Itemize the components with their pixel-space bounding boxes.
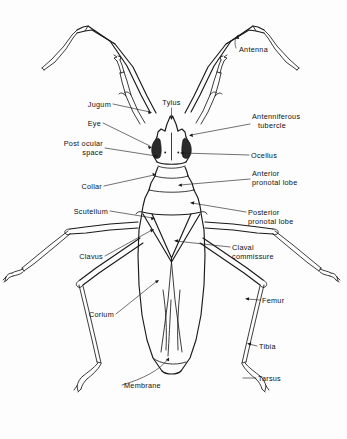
label-post-ocular-space-line1: Post ocular	[64, 139, 104, 148]
label-ocellus: Ocellus	[251, 151, 277, 160]
hindleg-right	[200, 238, 269, 392]
antenna-right	[185, 26, 299, 113]
label-eye: Eye	[88, 119, 101, 128]
midleg-left	[3, 222, 138, 282]
label-collar: Collar	[81, 182, 102, 191]
compound-eye-right	[182, 138, 191, 158]
label-clavus: Clavus	[79, 252, 103, 261]
label-antenna: Antenna	[239, 45, 269, 54]
label-antenniferous-tubercle-line2: tubercle	[258, 121, 286, 130]
anatomy-figure: Antenna Tylus Jugum Eye Post ocular spac…	[0, 0, 347, 439]
label-claval-commissure-line1: Claval	[232, 243, 254, 252]
label-anterior-pronotal-lobe-line2: pronotal lobe	[252, 178, 297, 187]
thorax	[136, 167, 207, 215]
label-tylus: Tylus	[162, 98, 180, 107]
ocellus-right	[177, 152, 179, 154]
label-texts: Antenna Tylus Jugum Eye Post ocular spac…	[64, 45, 301, 390]
label-claval-commissure-line2: commissure	[232, 252, 274, 261]
label-anterior-pronotal-lobe-line1: Anterior	[252, 169, 280, 178]
head	[152, 116, 192, 169]
leader-lines	[103, 35, 260, 385]
label-membrane: Membrane	[124, 381, 161, 390]
label-scutellum: Scutellum	[74, 207, 108, 216]
label-post-ocular-space-line2: space	[82, 148, 103, 157]
foreleg-right	[196, 55, 227, 124]
label-corium: Corium	[89, 310, 114, 319]
anatomy-illustration: Antenna Tylus Jugum Eye Post ocular spac…	[0, 0, 347, 439]
label-posterior-pronotal-lobe-line1: Posterior	[248, 208, 280, 217]
label-femur: Femur	[262, 296, 285, 305]
label-tarsus: Tarsus	[258, 374, 281, 383]
ocellus-left	[164, 152, 166, 154]
foreleg-left	[114, 55, 145, 124]
hemelytra	[138, 213, 205, 374]
label-tibia: Tibia	[259, 342, 276, 351]
label-posterior-pronotal-lobe-line2: pronotal lobe	[248, 217, 293, 226]
label-jugum: Jugum	[88, 100, 111, 109]
label-antenniferous-tubercle-line1: Antenniferous	[252, 112, 300, 121]
